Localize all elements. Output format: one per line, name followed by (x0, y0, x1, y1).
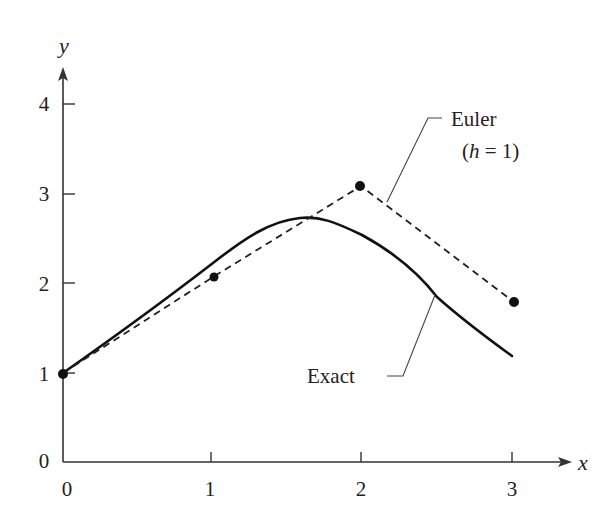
exact-leader-line (387, 295, 435, 376)
x-tick-label-1: 1 (205, 477, 216, 501)
x-axis-label: x (577, 450, 588, 475)
x-tick-label-0: 0 (62, 477, 73, 501)
euler-polyline (63, 186, 514, 373)
y-ticks (63, 104, 75, 373)
euler-point-0 (58, 369, 68, 379)
euler-leader-line (387, 118, 442, 202)
y-tick-label-0: 0 (39, 449, 50, 473)
euler-label: Euler (451, 107, 496, 131)
euler-point-3 (509, 297, 519, 307)
euler-step-label: (h = 1) (462, 139, 519, 163)
chart-canvas: 0 1 2 3 0 1 2 3 4 x y Euler (h = 1) Exac… (0, 0, 615, 521)
x-ticks (211, 452, 512, 462)
y-tick-label-4: 4 (39, 92, 50, 116)
y-tick-label-2: 2 (39, 272, 50, 296)
euler-point-1 (210, 273, 219, 282)
y-axis-label: y (57, 33, 69, 58)
y-tick-label-1: 1 (39, 362, 50, 386)
euler-point-2 (355, 181, 365, 191)
exact-label: Exact (307, 364, 355, 388)
euler-points (58, 181, 519, 379)
x-tick-label-3: 3 (507, 477, 518, 501)
exact-curve (63, 218, 512, 373)
y-tick-label-3: 3 (39, 182, 50, 206)
x-tick-label-2: 2 (356, 477, 367, 501)
